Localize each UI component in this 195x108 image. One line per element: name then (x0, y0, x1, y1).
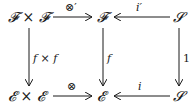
commutative-diagram: 𝓕 × 𝓕 𝓕 𝓢 𝓔 × 𝓔 𝓔 𝓢 ⊗′ i′ f × f f 1 ⊗ i (0, 0, 195, 108)
node-bottom-left: 𝓔 × 𝓔 (8, 88, 49, 104)
label-f-times-f: f × f (32, 52, 59, 65)
node-bottom-mid: 𝓔 (97, 88, 109, 104)
label-tensor-prime: ⊗′ (65, 1, 77, 14)
label-f: f (106, 52, 113, 65)
label-one: 1 (183, 52, 190, 65)
node-top-right: 𝓢 (173, 9, 188, 25)
node-bottom-right: 𝓢 (173, 88, 188, 104)
label-i: i (138, 80, 142, 93)
label-tensor: ⊗ (67, 80, 76, 93)
label-i-prime: i′ (136, 1, 143, 14)
node-top-left: 𝓕 × 𝓕 (8, 9, 54, 25)
node-top-mid: 𝓕 (97, 9, 112, 25)
